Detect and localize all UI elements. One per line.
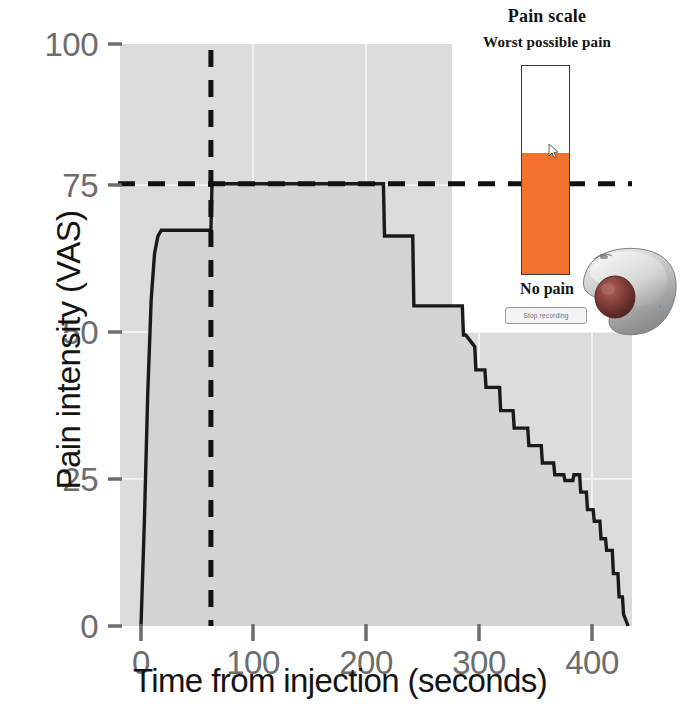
inset-top-label: Worst possible pain	[444, 34, 650, 51]
x-axis-title: Time from injection (seconds)	[0, 662, 680, 700]
figure-root: 100 75 50 25 0 0 100 200 300 400 Time fr…	[0, 0, 680, 719]
vas-slider-fill	[522, 153, 569, 274]
y-axis-title: Pain intensity (VAS)	[50, 50, 88, 650]
y-axis-ticks	[108, 44, 122, 626]
x-axis-ticks	[141, 624, 592, 641]
inset-title: Pain scale	[452, 6, 642, 27]
vas-slider[interactable]	[521, 65, 570, 275]
cursor-pointer-icon	[548, 144, 559, 158]
trackball-mouse-icon	[574, 242, 680, 342]
pain-scale-inset: Pain scale Worst possible pain No pain S…	[452, 2, 680, 342]
